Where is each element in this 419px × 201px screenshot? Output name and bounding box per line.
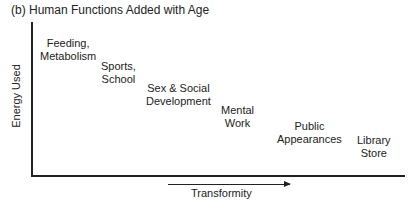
transformity-arrow-line bbox=[168, 184, 290, 185]
x-axis-line bbox=[31, 175, 405, 177]
function-label-feeding: Feeding, Metabolism bbox=[40, 37, 96, 63]
arrow-right-icon bbox=[284, 181, 291, 187]
function-label-sports: Sports, School bbox=[101, 60, 136, 86]
y-axis-label: Energy Used bbox=[10, 64, 22, 128]
x-axis-label: Transformity bbox=[191, 187, 252, 199]
function-label-library-store: Library Store bbox=[357, 134, 391, 160]
function-label-public-appearances: Public Appearances bbox=[277, 120, 342, 146]
y-axis-line bbox=[31, 22, 33, 177]
function-label-mental-work: Mental Work bbox=[221, 104, 254, 130]
figure-title: (b) Human Functions Added with Age bbox=[11, 3, 209, 17]
function-label-sex-social: Sex & Social Development bbox=[146, 82, 211, 108]
